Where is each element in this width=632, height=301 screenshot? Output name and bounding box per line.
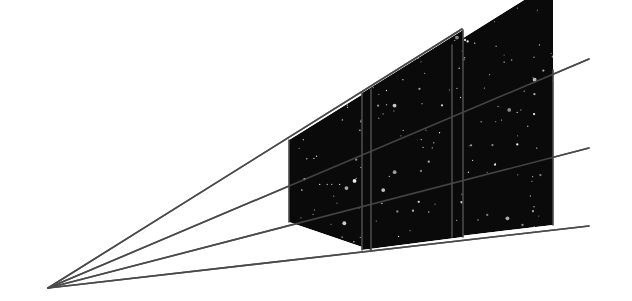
star-speck xyxy=(491,144,493,146)
star-speck xyxy=(454,40,455,41)
star-speck xyxy=(477,219,478,220)
star-speck xyxy=(347,105,348,106)
star-speck xyxy=(533,113,535,115)
star-speck xyxy=(339,184,340,185)
star-speck xyxy=(455,36,459,40)
star-speck xyxy=(511,59,512,60)
star-speck xyxy=(428,161,430,163)
star-speck xyxy=(418,201,420,203)
star-speck xyxy=(434,204,435,205)
star-speck xyxy=(398,236,399,237)
star-speck xyxy=(516,143,518,145)
star-speck xyxy=(532,176,533,177)
star-speck xyxy=(530,195,531,196)
star-speck xyxy=(486,214,488,216)
star-speck xyxy=(441,104,443,106)
star-speck xyxy=(533,57,534,58)
star-speck xyxy=(303,139,304,140)
star-speck xyxy=(432,147,433,148)
star-speck xyxy=(359,130,360,131)
star-speck xyxy=(327,184,328,185)
star-speck xyxy=(531,181,532,182)
star-speck xyxy=(316,156,317,157)
star-speck xyxy=(466,40,468,42)
star-speck xyxy=(389,176,390,177)
figure-canvas xyxy=(0,0,632,301)
star-speck xyxy=(464,57,465,58)
star-speck xyxy=(503,61,504,62)
star-speck xyxy=(464,39,466,41)
star-speck xyxy=(494,21,495,22)
star-speck xyxy=(456,88,457,89)
star-speck xyxy=(506,216,510,220)
star-speck xyxy=(353,179,357,183)
star-speck xyxy=(306,158,307,159)
star-speck xyxy=(470,144,472,146)
star-speck xyxy=(494,164,496,166)
star-speck xyxy=(449,89,450,90)
star-speck xyxy=(537,9,538,10)
star-speck xyxy=(468,172,469,173)
star-speck xyxy=(517,7,518,8)
star-speck xyxy=(424,73,425,74)
star-speck xyxy=(421,103,422,104)
star-speck xyxy=(517,135,518,136)
star-speck xyxy=(386,104,387,105)
star-speck xyxy=(472,160,473,161)
star-speck xyxy=(300,217,301,218)
star-speck xyxy=(302,189,303,190)
star-speck xyxy=(503,54,504,55)
star-speck xyxy=(538,215,539,216)
star-speck xyxy=(489,74,490,75)
star-speck xyxy=(356,178,357,179)
star-speck xyxy=(336,203,337,204)
star-speck xyxy=(378,94,379,95)
star-speck xyxy=(527,126,528,127)
star-speck xyxy=(533,206,534,207)
star-speck xyxy=(524,91,525,92)
star-speck xyxy=(377,105,379,107)
star-speck xyxy=(386,90,387,91)
star-speck xyxy=(312,214,313,215)
star-speck xyxy=(355,159,357,161)
star-speck xyxy=(484,87,485,88)
star-speck xyxy=(313,158,314,159)
star-speck xyxy=(376,220,377,221)
star-speck xyxy=(418,88,420,90)
star-speck xyxy=(474,43,475,44)
star-speck xyxy=(347,107,348,108)
star-speck xyxy=(469,145,470,146)
star-speck xyxy=(539,174,541,176)
panel-far-right xyxy=(452,0,554,237)
star-speck xyxy=(536,147,537,148)
star-speck xyxy=(396,210,398,212)
star-speck xyxy=(341,236,342,237)
star-speck xyxy=(520,109,521,110)
star-speck xyxy=(497,106,498,107)
star-speck xyxy=(495,46,496,47)
star-speck xyxy=(517,112,518,113)
star-speck xyxy=(393,110,394,111)
star-speck xyxy=(393,170,397,174)
star-speck xyxy=(381,188,385,192)
star-speck xyxy=(409,230,410,231)
star-speck xyxy=(433,142,434,143)
star-speck xyxy=(412,210,414,212)
star-speck xyxy=(501,119,502,120)
star-speck xyxy=(333,196,334,197)
star-speck xyxy=(542,69,544,71)
star-speck xyxy=(382,113,383,114)
star-speck xyxy=(314,209,315,210)
star-speck xyxy=(331,184,332,185)
star-speck xyxy=(425,130,426,131)
star-speck xyxy=(439,132,440,133)
star-speck xyxy=(460,97,461,98)
star-speck xyxy=(420,61,421,62)
star-speck xyxy=(420,170,422,172)
star-speck xyxy=(532,77,533,78)
star-speck xyxy=(342,221,346,225)
star-speck xyxy=(345,186,349,190)
star-speck xyxy=(400,135,401,136)
star-speck xyxy=(393,104,397,108)
star-speck xyxy=(521,224,523,226)
